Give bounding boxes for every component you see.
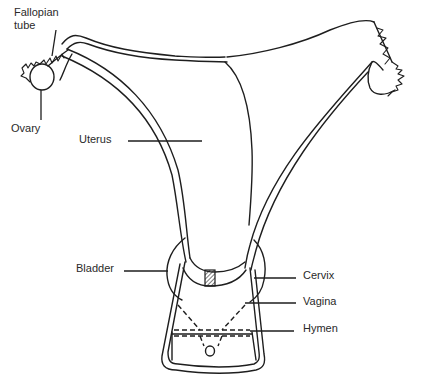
hymen: [172, 305, 252, 356]
label-cervix: Cervix: [303, 269, 334, 282]
label-fallopian-tube: Fallopian tube: [14, 6, 59, 32]
label-fallopian-line1: Fallopian: [14, 6, 59, 19]
left-fallopian-tube: [40, 36, 227, 80]
label-hymen: Hymen: [303, 322, 338, 335]
reproductive-system-diagram: [0, 0, 430, 384]
label-uterus: Uterus: [79, 133, 111, 146]
uterus: [62, 49, 372, 272]
right-fallopian-tube: [227, 20, 404, 96]
label-bladder: Bladder: [76, 262, 114, 275]
label-ovary: Ovary: [11, 122, 40, 135]
label-vagina: Vagina: [303, 295, 336, 308]
cervix-plug: [205, 270, 215, 286]
fallopian-tube-leader: [52, 30, 56, 56]
bladder: [167, 238, 185, 300]
left-ovary: [30, 64, 54, 90]
label-fallopian-line2: tube: [14, 19, 59, 32]
